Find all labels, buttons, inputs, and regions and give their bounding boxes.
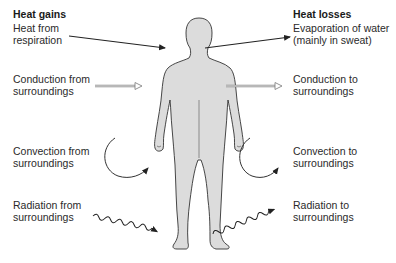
conduction-in-arrow <box>95 83 142 90</box>
radiation-in-arrow <box>92 214 158 233</box>
convection-in-arrow <box>105 138 148 177</box>
heat-gains-header: Heat gains <box>13 8 66 20</box>
loss-convection-label: Convection to surroundings <box>293 145 357 169</box>
gain-radiation-label: Radiation from surroundings <box>13 199 81 223</box>
gain-respiration-label: Heat from respiration <box>13 22 62 46</box>
loss-radiation-label: Radiation to surroundings <box>293 199 354 223</box>
heat-losses-header: Heat losses <box>293 8 351 20</box>
loss-conduction-label: Conduction to surroundings <box>293 73 358 97</box>
convection-out-arrow <box>240 138 278 177</box>
loss-evaporation-label: Evaporation of water (mainly in sweat) <box>293 22 389 46</box>
respiration-arrow <box>69 36 165 48</box>
radiation-out-arrow <box>212 207 275 236</box>
gain-conduction-label: Conduction from surroundings <box>13 73 90 97</box>
evaporation-arrow <box>205 37 290 48</box>
gain-convection-label: Convection from surroundings <box>13 145 89 169</box>
